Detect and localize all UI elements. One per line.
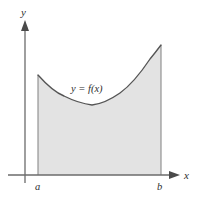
figure-canvas: y x a b y = f(x) [0,0,198,198]
shaded-area-region [38,45,161,175]
area-under-curve-figure: y x a b y = f(x) [0,0,198,198]
x-axis-label: x [183,169,189,181]
x-axis-arrow-icon [169,171,180,179]
y-axis-label: y [20,6,26,18]
tick-label-a: a [35,181,40,192]
y-axis-arrow-icon [21,20,29,31]
curve-equation-label: y = f(x) [70,83,103,95]
tick-label-b: b [157,181,162,192]
